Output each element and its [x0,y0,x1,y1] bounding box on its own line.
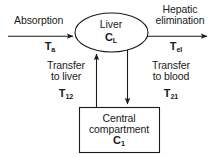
hepatic-elimination-label-line2: elimination [155,15,204,26]
liver-node-label: Liver [100,19,122,30]
liver-concentration-symbol: C [105,31,113,43]
absorption-symbol-label: Ta [45,41,56,52]
absorption-label: Absorption [14,15,63,26]
transfer-to-blood-symbol-subscript: 21 [170,92,178,101]
transfer-to-blood-symbol-label: T21 [164,88,178,99]
central-compartment-concentration-symbol: C [113,134,121,146]
hepatic-elimination-symbol-subscript: el [176,45,182,54]
central-compartment-concentration-subscript: 1 [121,139,125,148]
absorption-symbol: T [45,40,52,52]
absorption-symbol-subscript: a [51,45,55,54]
transfer-to-blood-label-line2: to blood [153,71,190,82]
transfer-to-liver-symbol-subscript: 12 [65,92,73,101]
hepatic-elimination-symbol: T [170,40,177,52]
central-compartment-concentration-label: C1 [113,135,125,146]
transfer-to-blood-symbol: T [164,87,171,99]
transfer-to-liver-symbol-label: T12 [59,88,73,99]
transfer-to-liver-symbol: T [59,87,66,99]
hepatic-elimination-symbol-label: Tel [170,41,182,52]
liver-concentration-label: CL [105,32,117,43]
transfer-to-liver-label-line2: to liver [51,71,81,82]
liver-concentration-subscript: L [113,36,117,45]
compartment-diagram: Liver CL Central compartment C1 Absorpti… [0,0,216,158]
